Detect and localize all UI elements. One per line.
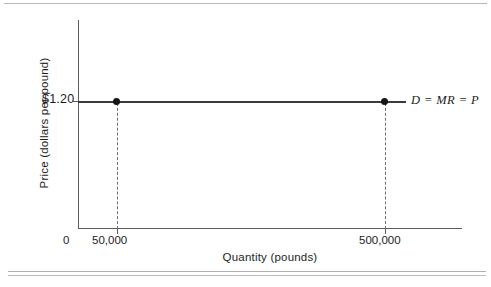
x-axis-tick-label-500000: 500,000: [359, 234, 401, 246]
data-point-marker-50000: [113, 98, 120, 105]
chart-plot-area: $1.20 0 50,000 500,000 Price (dollars pe…: [0, 0, 491, 287]
x-axis-origin-label: 0: [63, 234, 69, 246]
y-axis-title: Price (dollars per pound): [38, 43, 50, 203]
drop-line-500000: [385, 103, 386, 229]
drop-line-50000: [117, 103, 118, 229]
y-axis-line: [78, 20, 79, 229]
demand-curve-line: [78, 101, 406, 103]
demand-curve-annotation: D = MR = P: [411, 93, 479, 108]
page-rule-bottom-upper: [8, 271, 486, 272]
figure-canvas: $1.20 0 50,000 500,000 Price (dollars pe…: [0, 0, 491, 287]
page-rule-bottom-lower: [8, 275, 486, 276]
x-axis-tick-label-50000: 50,000: [92, 234, 127, 246]
x-axis-title: Quantity (pounds): [160, 251, 380, 263]
data-point-marker-500000: [381, 98, 388, 105]
x-axis-line: [78, 228, 462, 229]
